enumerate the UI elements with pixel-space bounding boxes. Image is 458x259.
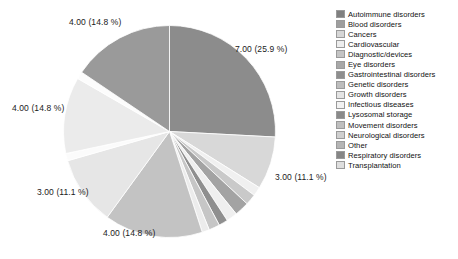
slice-label-bottom: 4.00 (14.8 %) xyxy=(103,228,155,238)
legend-item[interactable]: Cancers xyxy=(336,29,458,39)
slice-label-top-right: 7.00 (25.9 %) xyxy=(235,44,287,54)
legend-swatch-icon xyxy=(336,81,345,89)
legend-swatch-icon xyxy=(336,71,345,79)
legend-item[interactable]: Infectious diseases xyxy=(336,100,458,110)
legend-item-label: Blood disorders xyxy=(348,20,402,29)
legend-swatch-icon xyxy=(336,91,345,99)
legend-item-label: Cancers xyxy=(348,30,377,39)
legend-item[interactable]: Gastrointestinal disorders xyxy=(336,70,458,80)
legend-item[interactable]: Autoimmune disorders xyxy=(336,9,458,19)
legend: Autoimmune disordersBlood disordersCance… xyxy=(336,9,458,171)
slice-label-left: 4.00 (14.8 %) xyxy=(12,103,64,113)
legend-item-label: Lysosomal storage xyxy=(348,110,412,119)
legend-item-label: Diagnostic/devices xyxy=(348,50,412,59)
legend-swatch-icon xyxy=(336,20,345,28)
legend-item-label: Gastrointestinal disorders xyxy=(348,70,435,79)
pie-svg xyxy=(62,24,277,239)
legend-item[interactable]: Eye disorders xyxy=(336,59,458,69)
legend-item-label: Other xyxy=(348,141,367,150)
legend-item-label: Cardiovascular xyxy=(348,40,399,49)
slice-label-lower-left: 3.00 (11.1 %) xyxy=(37,187,89,197)
legend-swatch-icon xyxy=(336,111,345,119)
pie-slice[interactable] xyxy=(170,26,276,138)
legend-swatch-icon xyxy=(336,30,345,38)
legend-item[interactable]: Movement disorders xyxy=(336,120,458,130)
legend-swatch-icon xyxy=(336,141,345,149)
legend-item[interactable]: Lysosomal storage xyxy=(336,110,458,120)
legend-swatch-icon xyxy=(336,151,345,159)
legend-swatch-icon xyxy=(336,131,345,139)
legend-item[interactable]: Blood disorders xyxy=(336,19,458,29)
pie-chart-area: 7.00 (25.9 %) 3.00 (11.1 %) 4.00 (14.8 %… xyxy=(0,0,330,259)
legend-item-label: Respiratory disorders xyxy=(348,151,421,160)
legend-swatch-icon xyxy=(336,61,345,69)
legend-item-label: Movement disorders xyxy=(348,121,418,130)
legend-item-label: Growth disorders xyxy=(348,90,407,99)
slice-label-right: 3.00 (11.1 %) xyxy=(275,172,327,182)
legend-swatch-icon xyxy=(336,50,345,58)
legend-swatch-icon xyxy=(336,101,345,109)
legend-item[interactable]: Growth disorders xyxy=(336,90,458,100)
slice-label-top-left: 4.00 (14.8 %) xyxy=(69,17,121,27)
legend-item[interactable]: Diagnostic/devices xyxy=(336,49,458,59)
legend-item-label: Autoimmune disorders xyxy=(348,10,425,19)
legend-item-label: Infectious diseases xyxy=(348,100,414,109)
legend-item[interactable]: Transplantation xyxy=(336,160,458,170)
legend-item[interactable]: Genetic disorders xyxy=(336,80,458,90)
legend-swatch-icon xyxy=(336,161,345,169)
legend-item-label: Transplantation xyxy=(348,161,401,170)
legend-item-label: Neurological disorders xyxy=(348,131,425,140)
legend-item[interactable]: Cardiovascular xyxy=(336,39,458,49)
legend-item[interactable]: Respiratory disorders xyxy=(336,150,458,160)
legend-swatch-icon xyxy=(336,10,345,18)
pie-chart xyxy=(62,24,277,239)
legend-item[interactable]: Neurological disorders xyxy=(336,130,458,140)
legend-item[interactable]: Other xyxy=(336,140,458,150)
legend-swatch-icon xyxy=(336,121,345,129)
legend-item-label: Eye disorders xyxy=(348,60,395,69)
legend-item-label: Genetic disorders xyxy=(348,80,408,89)
legend-swatch-icon xyxy=(336,40,345,48)
